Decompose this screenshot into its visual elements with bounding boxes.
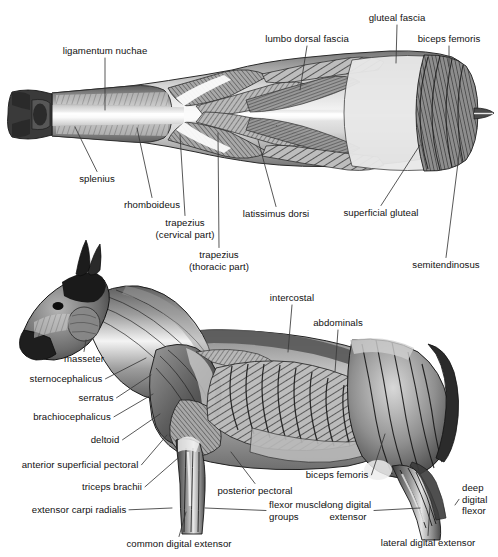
label-sternocephalicus: sternocephalicus [30,373,103,385]
leader-deltoid [123,414,161,440]
label-deep-digital-flexor: deep digital flexor [462,482,487,517]
label-splenius: splenius [79,173,115,185]
label-brachiocephalicus: brachiocephalicus [33,411,111,423]
label-extensor-carpi-radialis: extensor carpi radialis [32,504,126,516]
label-biceps-femoris-bottom: biceps femoris [306,469,369,481]
leader-deep-digital-flexor [455,499,459,505]
label-trapezius-cervical: trapezius (cervical part) [156,217,215,240]
anatomy-illustration [0,0,498,557]
label-triceps-brachii: triceps brachii [82,481,142,493]
label-deltoid: deltoid [91,434,120,446]
leader-brachiocephalicus [114,394,153,417]
dorsal-view-figure [8,51,495,171]
label-semitendinosus: semitendinosus [412,259,479,271]
label-rhomboideus: rhomboideus [124,199,180,211]
label-latissimus-dorsi: latissimus dorsi [243,208,309,220]
label-abdominals: abdominals [313,317,363,329]
label-ligamentum-nuchae: ligamentum nuchae [63,45,148,57]
label-posterior-pectoral: posterior pectoral [217,485,292,497]
leader-triceps-brachii [145,458,178,487]
anatomy-figure-page: ligamentum nuchaelumbo dorsal fasciaglut… [0,0,498,557]
label-gluteal-fascia: gluteal fascia [369,12,426,24]
leader-extensor-carpi-radialis [129,508,172,510]
label-biceps-femoris-top: biceps femoris [418,33,481,45]
label-serratus: serratus [78,392,113,404]
label-masseter: masseter [64,353,104,365]
label-lateral-digital-extensor: lateral digital extensor [381,537,476,549]
label-superficial-gluteal: superficial gluteal [343,207,418,219]
leader-anterior-superficial-pectoral [142,435,168,465]
label-long-digital-extensor: long digital extensor [325,499,371,522]
label-intercostal: intercostal [270,292,314,304]
label-trapezius-thoracic: trapezius (thoracic part) [189,249,249,272]
label-anterior-superficial-pectoral: anterior superficial pectoral [22,459,139,471]
leader-flexor-muscle-groups [205,508,266,511]
label-lumbo-dorsal-fascia: lumbo dorsal fascia [265,33,349,45]
label-common-digital-extensor: common digital extensor [126,538,231,550]
label-flexor-muscle-groups: flexor muscle groups [269,499,326,522]
